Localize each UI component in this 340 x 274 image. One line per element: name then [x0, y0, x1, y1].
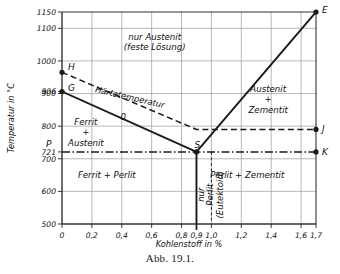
data-point-marker: [194, 149, 199, 154]
data-point-marker: [313, 9, 318, 14]
y-tick-label: 800: [42, 122, 57, 131]
annotation-nur-austenit: (feste Lösung): [124, 42, 186, 52]
annotation-ferrit-austenit: +: [82, 127, 89, 137]
x-axis-ticks: [62, 224, 316, 230]
y-tick-labels: 500600700721800900906100011001150: [37, 8, 56, 229]
x-tick-label: 1,2: [235, 231, 247, 240]
phase-diagram-chart: 00,20,40,60,80,91,01,21,41,61,7 50060070…: [0, 0, 340, 274]
annotation-ferrit-austenit: Ferrit: [74, 117, 98, 127]
x-tick-label: 0,2: [86, 231, 98, 240]
point-label-H: H: [68, 62, 75, 72]
figure-container: 00,20,40,60,80,91,01,21,41,61,7 50060070…: [0, 0, 340, 274]
point-label-K: K: [322, 147, 329, 157]
data-point-marker: [313, 149, 318, 154]
y-tick-label: 500: [42, 220, 57, 229]
figure-caption: Abb. 19.1.: [0, 252, 340, 264]
x-tick-label: 0,4: [116, 231, 128, 240]
y-tick-label: 906: [42, 87, 57, 96]
y-axis-title: Temperatur in °C: [6, 83, 16, 153]
plot-background: [62, 12, 316, 224]
annotation-nur-austenit: nur Austenit: [128, 32, 181, 42]
x-tick-label: 1,7: [310, 231, 322, 240]
annotation-haerte-null: 0: [121, 112, 127, 122]
annotation-line: Perlit: [205, 183, 215, 206]
annotation-austenit-zementit: Austenit: [249, 84, 286, 94]
point-label-P: P: [46, 139, 52, 149]
data-point-marker: [313, 127, 318, 132]
x-axis-title: Kohlenstoff in %: [156, 239, 223, 249]
data-point-marker: [59, 70, 64, 75]
annotation-austenit-zementit: +: [265, 94, 272, 104]
x-tick-label: 1,6: [295, 231, 307, 240]
point-label-S: S: [194, 140, 200, 150]
annotation-line: nur: [196, 187, 206, 202]
point-label-E: E: [322, 5, 328, 15]
y-tick-label: 721: [42, 148, 57, 157]
annotation-ferrit-perlit: Ferrit + Perlit: [78, 170, 136, 180]
point-label-J: J: [320, 124, 325, 134]
annotation-line: (Eutektoid): [215, 171, 225, 219]
x-tick-label: 0: [60, 231, 65, 240]
point-label-G: G: [68, 83, 75, 93]
annotation-austenit-zementit: Zementit: [247, 105, 288, 115]
annotation-ferrit-austenit: Austenit: [67, 138, 104, 148]
y-tick-label: 1000: [37, 57, 56, 66]
x-tick-label: 1,4: [265, 231, 277, 240]
y-tick-label: 600: [42, 187, 57, 196]
data-point-marker: [59, 89, 64, 94]
y-tick-label: 1150: [37, 8, 56, 17]
y-tick-label: 1100: [37, 24, 56, 33]
